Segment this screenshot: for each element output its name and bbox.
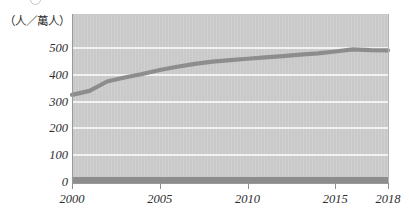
y-axis-tick-label: 500 [24,41,68,56]
y-axis-tick-labels: 5004003002001000 [18,14,68,182]
x-axis-tick-label: 2000 [60,192,85,207]
y-axis-tick-label: 200 [24,121,68,136]
x-axis-line [72,183,389,184]
cropped-caption-sliver [0,0,409,9]
x-axis-tick-mark [335,183,336,189]
x-axis-tick-label: 2005 [147,192,172,207]
data-line-series [72,14,388,182]
x-axis-tick-mark [72,183,73,189]
plot-area [72,14,388,182]
plot-right-border [388,14,389,184]
y-axis-tick-label: 0 [24,175,68,190]
y-axis-tick-label: 100 [24,148,68,163]
x-axis-tick-label: 2015 [323,192,348,207]
circled-number-icon [30,0,41,5]
y-axis-line [72,14,73,184]
y-axis-tick-label: 300 [24,94,68,109]
x-axis-tick-mark [160,183,161,189]
x-axis-tick-mark [388,183,389,189]
chart-screenshot: （人／萬人） 5004003002001000 2000200520102015… [0,0,409,223]
x-axis-tick-label: 2018 [376,192,401,207]
x-axis-tick-label: 2010 [235,192,260,207]
x-axis-tick-mark [248,183,249,189]
y-axis-tick-label: 400 [24,67,68,82]
